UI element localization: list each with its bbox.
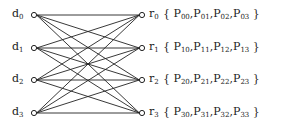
label-r1: r1 — [149, 41, 159, 56]
node-r1-circle — [139, 45, 144, 50]
node-r3-circle — [139, 110, 144, 115]
node-d3-circle — [31, 110, 36, 115]
label-r2: r2 — [149, 73, 159, 88]
label-d3: d3 — [12, 106, 24, 121]
node-r0-circle — [139, 12, 144, 17]
label-r3: r3 — [149, 106, 159, 121]
node-d1-circle — [31, 45, 36, 50]
node-r2-circle — [139, 77, 144, 82]
set-r1: { P10,P11,P12,P13 } — [163, 41, 260, 56]
label-d0: d0 — [12, 8, 24, 23]
node-d0-circle — [31, 12, 36, 17]
label-r0: r0 — [149, 8, 159, 23]
node-d2-circle — [31, 77, 36, 82]
label-d1: d1 — [12, 41, 24, 56]
set-r2: { P20,P21,P22,P23 } — [163, 73, 260, 88]
set-r0: { P00,P01,P02,P03 } — [163, 8, 260, 23]
label-d2: d2 — [12, 73, 24, 88]
set-r3: { P30,P31,P32,P33 } — [163, 106, 260, 121]
edges — [37, 15, 140, 113]
